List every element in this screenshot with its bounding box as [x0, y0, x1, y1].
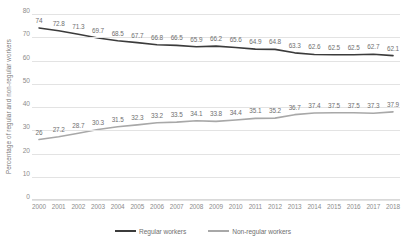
x-tick-label: 2013	[288, 203, 302, 210]
y-tick-label: 30	[23, 123, 30, 130]
data-label: 34.4	[230, 109, 242, 116]
data-label: 27.2	[53, 126, 65, 133]
data-label: 66.5	[171, 34, 183, 41]
legend-swatch-icon	[115, 230, 136, 232]
gridline	[32, 154, 400, 155]
y-tick-label: 60	[23, 53, 30, 60]
data-label: 37.3	[367, 102, 379, 109]
data-label: 64.8	[269, 38, 281, 45]
data-label: 62.5	[348, 44, 360, 51]
gridline	[32, 107, 400, 108]
x-axis-tick-labels: 2000200120022003200420052006200720082009…	[32, 203, 400, 215]
x-tick-label: 2011	[249, 203, 262, 210]
gridline	[32, 130, 400, 131]
data-label: 62.7	[367, 43, 379, 50]
x-tick-label: 2017	[366, 203, 380, 210]
data-label: 33.2	[151, 112, 163, 119]
chart-legend: Regular workersNon-regular workers	[0, 224, 406, 238]
y-tick-label: 0	[26, 193, 30, 200]
data-label: 33.5	[171, 111, 183, 118]
data-label: 62.5	[328, 44, 340, 51]
y-tick-label: 20	[23, 146, 30, 153]
legend-label: Regular workers	[139, 228, 186, 235]
x-tick-label: 2004	[111, 203, 125, 210]
gridline	[32, 61, 400, 62]
data-label: 67.7	[131, 32, 143, 39]
data-label: 28.7	[72, 122, 84, 129]
data-label: 37.5	[328, 102, 340, 109]
plot-area: 7472.871.369.768.567.766.866.565.966.265…	[32, 14, 400, 200]
data-label: 65.9	[190, 36, 202, 43]
gridline	[32, 14, 400, 15]
data-label: 64.9	[249, 38, 261, 45]
y-tick-label: 40	[23, 100, 30, 107]
data-label: 26	[36, 129, 43, 136]
y-tick-label: 50	[23, 76, 30, 83]
gridline	[32, 84, 400, 85]
x-tick-label: 2006	[150, 203, 164, 210]
data-label: 37.5	[348, 102, 360, 109]
data-label: 62.6	[308, 43, 320, 50]
x-tick-label: 2000	[32, 203, 46, 210]
y-tick-label: 70	[23, 30, 30, 37]
data-label: 32.3	[131, 114, 143, 121]
data-label: 72.8	[53, 20, 65, 27]
legend-entry[interactable]: Regular workers	[115, 228, 186, 235]
x-axis-line	[32, 199, 400, 200]
y-axis-tick-labels: 01020304050607080	[14, 10, 30, 200]
x-tick-label: 2005	[130, 203, 144, 210]
data-label: 71.3	[72, 23, 84, 30]
y-tick-label: 80	[23, 7, 30, 14]
y-tick-label: 10	[23, 169, 30, 176]
data-label: 62.1	[387, 45, 399, 52]
data-label: 66.2	[210, 35, 222, 42]
data-label: 37.4	[308, 102, 320, 109]
data-label: 65.6	[230, 36, 242, 43]
x-tick-label: 2009	[209, 203, 223, 210]
x-tick-label: 2002	[71, 203, 85, 210]
data-label: 35.1	[249, 107, 261, 114]
x-tick-label: 2015	[327, 203, 341, 210]
data-label: 74	[36, 17, 43, 24]
x-tick-label: 2018	[386, 203, 400, 210]
x-tick-label: 2008	[189, 203, 203, 210]
data-label: 36.7	[289, 104, 301, 111]
data-label: 37.9	[387, 101, 399, 108]
x-tick-label: 2010	[229, 203, 243, 210]
legend-entry[interactable]: Non-regular workers	[208, 228, 291, 235]
data-label: 69.7	[92, 27, 104, 34]
gridline	[32, 177, 400, 178]
data-label: 68.5	[112, 30, 124, 37]
data-label: 63.3	[289, 42, 301, 49]
data-label: 33.8	[210, 110, 222, 117]
x-tick-label: 2014	[307, 203, 321, 210]
data-label: 34.1	[190, 110, 202, 117]
data-label: 30.3	[92, 119, 104, 126]
x-tick-label: 2003	[91, 203, 105, 210]
x-tick-label: 2016	[347, 203, 361, 210]
legend-swatch-icon	[208, 230, 229, 232]
x-tick-label: 2007	[170, 203, 184, 210]
x-tick-label: 2012	[268, 203, 282, 210]
data-label: 66.8	[151, 34, 163, 41]
data-label: 31.5	[112, 116, 124, 123]
data-label: 35.2	[269, 107, 281, 114]
gridline	[32, 200, 400, 201]
legend-label: Non-regular workers	[232, 228, 291, 235]
x-tick-label: 2001	[52, 203, 66, 210]
line-chart: Percentage of regular and non-regular wo…	[0, 0, 406, 243]
